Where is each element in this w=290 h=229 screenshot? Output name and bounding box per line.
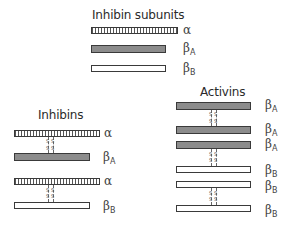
subunit-alpha-label: α [183,24,191,36]
sulfur-label: S [51,139,54,144]
activin-ab-bottom-bar [176,166,251,173]
sulfur-label: S [46,146,49,151]
inhibin-subunits-title: Inhibin subunits [92,8,184,22]
activin-ab-top-bar [176,141,251,149]
disulfide-bond-icon: SSSS [47,137,56,153]
inhibin-a-alpha-label: α [104,127,112,139]
disulfide-bond-icon: SSSS [210,149,219,166]
inhibin-a-betaA-label: βA [103,151,115,166]
activin-ab-top-label: βA [265,138,277,153]
inhibin-b-betaB-label: βB [103,200,115,215]
activin-b-top-label: βB [265,180,277,195]
activin-ab-bottom-label: βB [265,164,277,179]
activin-a-top-bar [176,102,251,110]
subunit-betaB-bar [91,65,166,72]
sulfur-label: S [214,158,217,163]
activin-a-top-label: βA [265,99,277,114]
sulfur-label: S [214,197,217,202]
sulfur-label: S [51,146,54,151]
subunit-betaA-bar [91,45,166,53]
activin-a-bottom-label: βA [265,123,277,138]
activin-a-bottom-bar [176,126,251,134]
sulfur-label: S [51,194,54,199]
subunit-betaB-label: βB [183,62,195,77]
activins-title: Activins [200,85,245,99]
sulfur-label: S [46,194,49,199]
inhibin-a-betaA-bar [14,153,90,161]
inhibin-b-betaB-bar [14,202,90,209]
disulfide-bond-icon: SSSS [210,188,219,205]
sulfur-label: S [209,119,212,124]
subunit-alpha-bar [91,27,178,34]
activin-b-bottom-label: βB [265,204,277,219]
activin-b-top-bar [176,181,251,188]
sulfur-label: S [46,139,49,144]
subunit-betaA-label: βA [183,42,195,57]
disulfide-bond-icon: SSSS [210,110,219,126]
sulfur-label: S [209,197,212,202]
activin-b-bottom-bar [176,205,251,212]
sulfur-label: S [209,112,212,117]
inhibin-b-alpha-label: α [104,175,112,187]
sulfur-label: S [214,112,217,117]
inhibins-title: Inhibins [38,108,83,122]
inhibin-b-alpha-bar [14,178,100,185]
sulfur-label: S [214,119,217,124]
disulfide-bond-icon: SSSS [47,185,56,202]
inhibin-a-alpha-bar [14,130,100,137]
sulfur-label: S [209,158,212,163]
